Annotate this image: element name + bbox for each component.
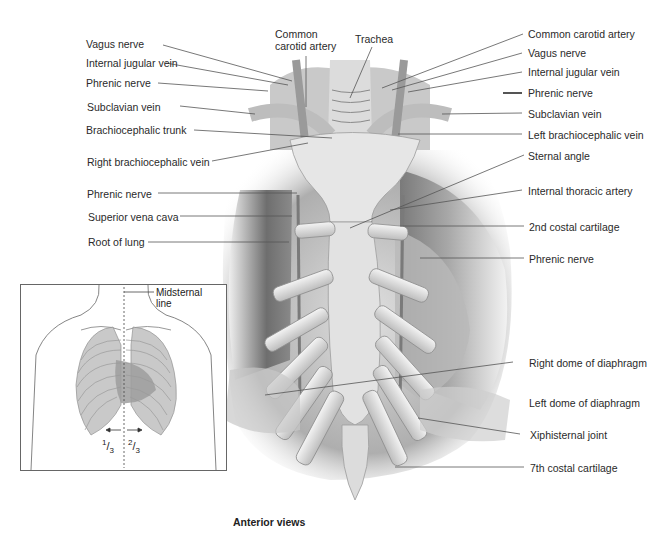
label-2nd-costal-cartilage: 2nd costal cartilage — [529, 221, 619, 233]
label-phrenic-nerve-right-lower: Phrenic nerve — [529, 253, 594, 265]
label-right-dome-of-diaphragm: Right dome of diaphragm — [529, 357, 647, 369]
fraction-one-third: 1/3 — [102, 438, 114, 455]
label-common-carotid-artery-right: Common carotid artery — [528, 28, 635, 40]
label-subclavian-vein-right: Subclavian vein — [528, 108, 602, 120]
label-phrenic-nerve-left-lower: Phrenic nerve — [87, 188, 152, 200]
fraction-right-numerator: 2 — [128, 438, 132, 447]
label-internal-jugular-vein-right: Internal jugular vein — [528, 66, 620, 78]
label-brachiocephalic-trunk: Brachiocephalic trunk — [86, 124, 186, 136]
fraction-right-denominator: 3 — [136, 446, 140, 455]
label-midsternal-line: Midsternal line — [156, 287, 202, 309]
inset-torso-diagram: Midsternal line 1/3 2/3 — [20, 284, 227, 471]
torso-outline-illustration — [21, 285, 226, 470]
fraction-left-denominator: 3 — [110, 446, 114, 455]
label-sternal-angle: Sternal angle — [528, 150, 590, 162]
label-left-dome-of-diaphragm: Left dome of diaphragm — [529, 397, 640, 409]
label-vagus-nerve-left: Vagus nerve — [86, 38, 144, 50]
label-superior-vena-cava: Superior vena cava — [88, 211, 178, 223]
label-xiphisternal-joint: Xiphisternal joint — [530, 429, 607, 441]
label-trachea: Trachea — [355, 33, 393, 45]
label-internal-thoracic-artery: Internal thoracic artery — [528, 185, 632, 197]
label-phrenic-nerve-right-upper: Phrenic nerve — [528, 87, 593, 99]
label-subclavian-vein-left: Subclavian vein — [87, 101, 161, 113]
fraction-two-thirds: 2/3 — [128, 438, 140, 455]
label-vagus-nerve-right: Vagus nerve — [528, 47, 586, 59]
label-root-of-lung: Root of lung — [88, 236, 145, 248]
label-right-brachiocephalic-vein: Right brachiocephalic vein — [87, 156, 210, 168]
label-common-carotid-artery-top: Common carotid artery — [275, 28, 336, 52]
label-phrenic-nerve-left-upper: Phrenic nerve — [86, 77, 151, 89]
label-7th-costal-cartilage: 7th costal cartilage — [530, 462, 618, 474]
figure-caption: Anterior views — [233, 516, 305, 528]
label-internal-jugular-vein-left: Internal jugular vein — [86, 57, 178, 69]
fraction-left-numerator: 1 — [102, 438, 106, 447]
label-left-brachiocephalic-vein: Left brachiocephalic vein — [528, 129, 644, 141]
